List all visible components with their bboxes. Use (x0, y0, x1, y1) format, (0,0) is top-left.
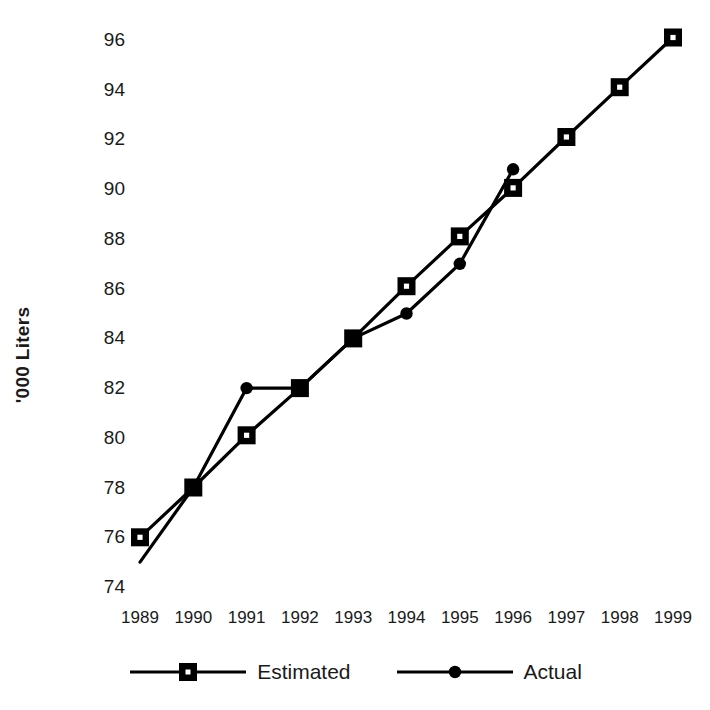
legend-swatch-circle-icon (395, 660, 515, 684)
x-axis-tick-label: 1995 (430, 609, 490, 626)
y-axis-tick-label: 86 (65, 279, 125, 298)
legend-item-actual[interactable]: Actual (395, 660, 582, 684)
data-point-marker-square[interactable] (238, 426, 256, 444)
data-point-marker-square[interactable] (398, 277, 416, 295)
series-lines (140, 38, 673, 563)
y-axis-tick-label: 80 (65, 428, 125, 447)
data-point-marker-square[interactable] (451, 227, 469, 245)
x-axis-tick-label: 1993 (323, 609, 383, 626)
data-point-marker-square[interactable] (664, 29, 682, 47)
y-axis-tick-label: 88 (65, 229, 125, 248)
chart-figure: '000 Liters 9694929088868482807876741989… (0, 0, 710, 710)
y-axis-tick-label: 74 (65, 577, 125, 596)
y-axis-tick-label: 82 (65, 378, 125, 397)
data-point-marker-square[interactable] (131, 528, 149, 546)
data-point-marker-circle[interactable] (400, 307, 412, 319)
x-axis-tick-label: 1996 (483, 609, 543, 626)
y-axis-tick-label: 92 (65, 129, 125, 148)
y-axis-tick-label: 76 (65, 527, 125, 546)
data-point-marker-circle[interactable] (294, 382, 306, 394)
data-point-marker-square[interactable] (504, 179, 522, 197)
data-point-marker-circle[interactable] (454, 258, 466, 270)
x-axis-tick-label: 1990 (163, 609, 223, 626)
data-point-marker-circle[interactable] (187, 481, 199, 493)
y-axis-tick-label: 90 (65, 179, 125, 198)
data-point-marker-circle[interactable] (507, 163, 519, 175)
data-point-marker-square[interactable] (557, 128, 575, 146)
legend-item-estimated[interactable]: Estimated (128, 660, 350, 684)
x-axis-tick-label: 1999 (643, 609, 703, 626)
legend-label-actual: Actual (524, 660, 582, 684)
y-axis-tick-label: 78 (65, 478, 125, 497)
legend-swatch-square-icon (128, 660, 248, 684)
y-axis-tick-label: 94 (65, 80, 125, 99)
data-point-marker-circle[interactable] (347, 332, 359, 344)
data-point-marker-circle[interactable] (240, 382, 252, 394)
y-axis-tick-label: 96 (65, 30, 125, 49)
legend-label-estimated: Estimated (257, 660, 350, 684)
x-axis-tick-label: 1992 (270, 609, 330, 626)
x-axis-tick-label: 1991 (217, 609, 277, 626)
x-axis-tick-label: 1994 (377, 609, 437, 626)
x-axis-tick-label: 1998 (590, 609, 650, 626)
chart-legend: Estimated Actual (0, 652, 710, 692)
chart-canvas (0, 0, 710, 710)
plot-area: 9694929088868482807876741989199019911992… (0, 0, 710, 710)
y-axis-tick-label: 84 (65, 328, 125, 347)
x-axis-tick-label: 1989 (110, 609, 170, 626)
data-point-marker-square[interactable] (611, 78, 629, 96)
x-axis-tick-label: 1997 (536, 609, 596, 626)
